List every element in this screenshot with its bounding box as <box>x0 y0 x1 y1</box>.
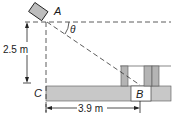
distance-label: 3.9 m <box>78 103 103 114</box>
line-of-sight <box>47 22 140 85</box>
angle-arc <box>65 22 69 34</box>
diagram-canvas: A θ 2.5 m C B 3.9 m <box>0 0 185 126</box>
point-b-label: B <box>136 88 143 100</box>
point-c-label: C <box>34 87 42 99</box>
ground-bar <box>46 86 171 101</box>
net-structure <box>120 66 171 86</box>
angle-theta-label: θ <box>70 24 76 35</box>
height-label: 2.5 m <box>3 44 28 55</box>
camera-icon <box>29 2 48 20</box>
point-a-label: A <box>53 5 61 17</box>
